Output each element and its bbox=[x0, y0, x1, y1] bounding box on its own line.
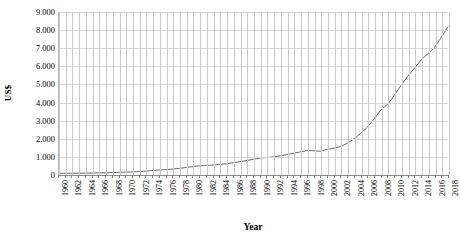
x-tick-mark bbox=[340, 175, 341, 178]
x-gridline bbox=[106, 12, 107, 175]
x-tick-mark bbox=[233, 175, 234, 178]
x-tick-mark bbox=[300, 175, 301, 178]
x-tick-mark bbox=[334, 175, 335, 178]
x-tick-mark bbox=[273, 175, 274, 178]
x-tick-mark bbox=[266, 175, 267, 178]
x-tick-mark bbox=[394, 175, 395, 178]
x-tick-mark bbox=[320, 175, 321, 178]
x-gridline bbox=[241, 12, 242, 175]
x-tick-mark bbox=[58, 175, 59, 178]
x-tick-mark bbox=[314, 175, 315, 178]
x-tick-label: 2000 bbox=[330, 180, 339, 196]
x-tick-mark bbox=[132, 175, 133, 178]
y-tick-label: 4.000 bbox=[36, 98, 55, 108]
x-tick-label: 1986 bbox=[236, 180, 245, 196]
x-tick-label: 1978 bbox=[182, 180, 191, 196]
x-gridline bbox=[146, 12, 147, 175]
x-gridline bbox=[315, 12, 316, 175]
x-tick-label: 1982 bbox=[209, 180, 218, 196]
x-tick-mark bbox=[199, 175, 200, 178]
y-tick-label: 2.000 bbox=[36, 134, 55, 144]
x-gridline bbox=[341, 12, 342, 175]
x-gridline bbox=[388, 12, 389, 175]
x-tick-mark bbox=[85, 175, 86, 178]
x-gridline bbox=[86, 12, 87, 175]
x-tick-mark bbox=[166, 175, 167, 178]
x-tick-mark bbox=[347, 175, 348, 178]
x-tick-label: 2008 bbox=[384, 180, 393, 196]
x-gridline bbox=[180, 12, 181, 175]
x-tick-mark bbox=[240, 175, 241, 178]
x-gridline bbox=[294, 12, 295, 175]
y-axis-tick-labels: 9.0008.0007.0006.0005.0004.0003.0002.000… bbox=[14, 0, 58, 185]
x-tick-label: 1972 bbox=[142, 180, 151, 196]
x-tick-mark bbox=[206, 175, 207, 178]
x-tick-mark bbox=[374, 175, 375, 178]
x-gridline bbox=[402, 12, 403, 175]
x-tick-mark bbox=[428, 175, 429, 178]
x-gridline bbox=[382, 12, 383, 175]
x-gridline bbox=[120, 12, 121, 175]
x-gridline bbox=[167, 12, 168, 175]
x-tick-label: 1974 bbox=[155, 180, 164, 196]
x-gridline bbox=[79, 12, 80, 175]
x-tick-mark bbox=[401, 175, 402, 178]
y-tick-label: 8.000 bbox=[36, 25, 55, 35]
x-tick-mark bbox=[98, 175, 99, 178]
x-axis: 1960196219641966196819701972197419761978… bbox=[58, 175, 448, 217]
x-gridline bbox=[220, 12, 221, 175]
x-tick-label: 1990 bbox=[263, 180, 272, 196]
x-gridline bbox=[227, 12, 228, 175]
x-gridline bbox=[362, 12, 363, 175]
x-tick-mark bbox=[246, 175, 247, 178]
x-gridline bbox=[140, 12, 141, 175]
y-tick-label: 3.000 bbox=[36, 116, 55, 126]
x-gridline bbox=[113, 12, 114, 175]
x-gridline bbox=[274, 12, 275, 175]
x-gridline bbox=[321, 12, 322, 175]
x-tick-mark bbox=[172, 175, 173, 178]
x-tick-mark bbox=[219, 175, 220, 178]
x-gridline bbox=[395, 12, 396, 175]
x-tick-mark bbox=[408, 175, 409, 178]
x-gridline bbox=[301, 12, 302, 175]
x-gridline bbox=[308, 12, 309, 175]
x-tick-mark bbox=[387, 175, 388, 178]
x-tick-mark bbox=[448, 175, 449, 178]
x-gridline bbox=[214, 12, 215, 175]
x-tick-label: 2002 bbox=[343, 180, 352, 196]
y-tick-label: 9.000 bbox=[36, 7, 55, 17]
x-gridline bbox=[355, 12, 356, 175]
x-tick-label: 1996 bbox=[303, 180, 312, 196]
x-tick-label: 2006 bbox=[370, 180, 379, 196]
x-gridline bbox=[173, 12, 174, 175]
x-tick-mark bbox=[226, 175, 227, 178]
x-gridline bbox=[247, 12, 248, 175]
x-tick-mark bbox=[213, 175, 214, 178]
x-gridline bbox=[436, 12, 437, 175]
x-gridline bbox=[153, 12, 154, 175]
x-gridline bbox=[207, 12, 208, 175]
x-tick-label: 1964 bbox=[88, 180, 97, 196]
plot-area bbox=[58, 12, 448, 175]
x-tick-mark bbox=[435, 175, 436, 178]
y-tick-label: 6.000 bbox=[36, 61, 55, 71]
x-tick-mark bbox=[260, 175, 261, 178]
x-gridline bbox=[267, 12, 268, 175]
x-tick-mark bbox=[293, 175, 294, 178]
y-tick-label: 5.000 bbox=[36, 79, 55, 89]
x-tick-mark bbox=[367, 175, 368, 178]
x-tick-label: 2010 bbox=[397, 180, 406, 196]
x-tick-mark bbox=[354, 175, 355, 178]
y-tick-label: 7.000 bbox=[36, 43, 55, 53]
x-gridline bbox=[335, 12, 336, 175]
x-gridline bbox=[328, 12, 329, 175]
x-tick-mark bbox=[125, 175, 126, 178]
x-tick-label: 2012 bbox=[411, 180, 420, 196]
y-axis-title-text: US$ bbox=[3, 84, 13, 101]
x-gridline bbox=[93, 12, 94, 175]
x-gridline bbox=[99, 12, 100, 175]
x-axis-title: Year bbox=[58, 222, 448, 232]
x-tick-label: 1970 bbox=[128, 180, 137, 196]
x-tick-mark bbox=[65, 175, 66, 178]
